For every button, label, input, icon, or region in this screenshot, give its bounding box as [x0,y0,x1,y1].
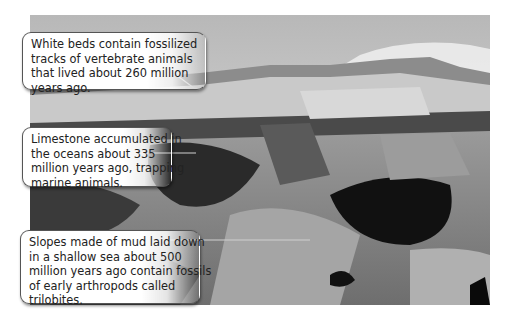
callout-text-line: trilobites. [29,293,191,308]
callout-white-beds: White beds contain fossilized tracks of … [22,32,206,90]
callout-text-line: White beds contain fossilized [31,37,197,52]
callout-text-line: that lived about 260 million [31,66,197,81]
callout-text-line: million years ago contain fossils [29,264,191,279]
callout-mud-slopes: Slopes made of mud laid down in a shallo… [20,230,200,304]
callout-text-line: Slopes made of mud laid down [29,235,191,250]
callout-text-line: Limestone accumulated in [31,132,163,147]
callout-text-line: tracks of vertebrate animals [31,52,197,67]
callout-text-line: the oceans about 335 [31,147,163,162]
callout-limestone: Limestone accumulated in the oceans abou… [22,127,172,187]
callout-text-line: marine animals. [31,176,163,191]
callout-text-line: years ago. [31,81,197,96]
callout-text-line: in a shallow sea about 500 [29,250,191,265]
callout-text-line: million years ago, trapping [31,161,163,176]
callout-text-line: of early arthropods called [29,279,191,294]
